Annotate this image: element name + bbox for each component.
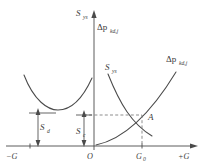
y-axis-label-sub: ys [82,14,88,20]
figure-container: S ys Δp kd,j S ys Δp kd,j A S d S c [0,0,205,164]
origin-label: O [87,152,93,161]
s-c-arrowhead-top [82,110,87,117]
s-d-arrowhead-top [36,108,41,115]
left-parabola-curve [24,75,92,110]
curves-group [24,72,176,145]
delta-p-curve [96,72,176,145]
x-tick-label-sub: 0 [143,156,146,162]
s-ys-curve-label: S ys [105,62,117,74]
x-tick-label-main: G [136,152,142,161]
intersection-point-label: A [147,112,154,122]
s-ys-curve [108,74,152,136]
s-c-label-sub: c [83,132,86,138]
s-c-label-main: S [76,126,81,136]
y-axis-arrowhead [91,10,96,18]
y-axis-label-main: S [76,8,81,18]
x-tick-g0-label: G 0 [136,152,146,162]
y-axis-label: S ys [76,8,88,20]
figure-canvas: S ys Δp kd,j S ys Δp kd,j A S d S c [0,0,205,164]
x-axis-right-label: +G [178,152,190,161]
s-ys-curve-label-main: S [105,62,110,72]
y-axis-second-label-sub: kd,j [110,28,119,34]
y-axis-second-label: Δp kd,j [97,22,119,34]
x-axis-left-label: −G [6,152,18,161]
y-axis-second-label-main: Δp [97,22,108,32]
s-ys-curve-label-sub: ys [111,68,117,74]
dimension-arrows-group [29,108,92,147]
s-d-label: S d [40,122,50,134]
s-d-label-main: S [40,122,45,132]
delta-p-curve-label-sub: kd,j [179,60,188,66]
delta-p-curve-label: Δp kd,j [166,54,188,66]
s-c-label: S c [76,126,86,138]
s-d-label-sub: d [47,128,50,134]
x-axis-arrowhead [190,143,198,148]
delta-p-curve-label-main: Δp [166,54,177,64]
